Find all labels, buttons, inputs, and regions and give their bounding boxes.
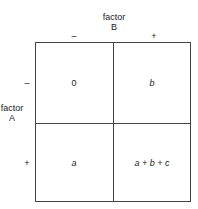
factor-a-plus: +	[20, 158, 34, 168]
factor-b-minus: –	[64, 31, 84, 41]
factor-b-label-line2: B	[94, 22, 134, 32]
factor-a-label-line2: A	[0, 113, 24, 123]
factor-b-label: factor B	[94, 12, 134, 32]
grid-divider-vertical	[113, 42, 114, 202]
grid-divider-horizontal	[35, 123, 191, 124]
factor-b-label-line1: factor	[94, 12, 134, 22]
factor-a-minus: –	[20, 78, 34, 88]
cell-a-minus-b-plus: b	[113, 78, 191, 88]
factor-a-label: factor A	[0, 103, 24, 123]
cell-a-minus-b-minus: 0	[35, 78, 113, 88]
factor-b-plus: +	[144, 31, 164, 41]
factor-a-label-line1: factor	[0, 103, 24, 113]
cell-a-plus-b-minus: a	[35, 158, 113, 168]
cell-a-plus-b-plus: a + b + c	[113, 158, 191, 168]
